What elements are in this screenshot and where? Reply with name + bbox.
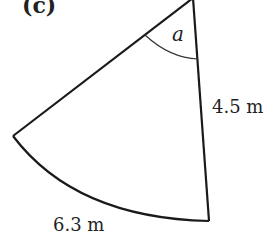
part-label: (c)	[22, 0, 56, 18]
radius-label: 4.5 m	[212, 96, 263, 117]
radius-edge-left	[13, 0, 193, 136]
sector-diagram: (c) a 4.5 m 6.3 m	[0, 0, 273, 239]
arc-edge	[13, 136, 209, 221]
sector-shape	[0, 0, 273, 239]
radius-edge-right	[193, 0, 209, 221]
arc-length-label: 6.3 m	[53, 214, 104, 235]
angle-label: a	[172, 22, 184, 46]
